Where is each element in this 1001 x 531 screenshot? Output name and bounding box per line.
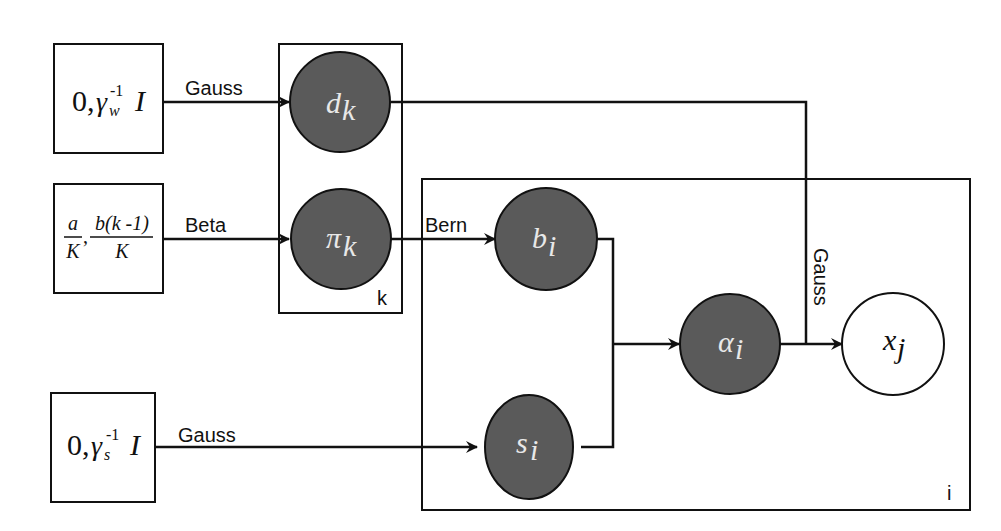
node-d-label: d [326, 86, 342, 119]
prior-w-sup: -1 [110, 82, 123, 99]
prior-s-sup: -1 [106, 426, 119, 443]
prior-s-zero: 0, [67, 428, 90, 461]
prior-pi-frac1-num: a [68, 212, 78, 234]
node-s: s i [485, 395, 573, 499]
node-d-sub: k [342, 93, 356, 126]
node-pi: π k [291, 189, 391, 289]
prior-w-sub: w [109, 102, 120, 119]
prior-s-sub: s [104, 446, 110, 463]
prior-box-s: 0, γ s -1 I [51, 393, 155, 502]
node-s-sub: i [530, 433, 538, 466]
edge-label-gauss-x: Gauss [810, 248, 832, 306]
node-pi-label: π [326, 221, 342, 254]
node-pi-sub: k [343, 229, 357, 262]
node-x: x j [842, 293, 944, 395]
prior-s-gamma: γ [91, 430, 103, 461]
node-s-label: s [516, 426, 528, 459]
node-alpha-label: α [718, 325, 735, 358]
prior-pi-frac1-den: K [65, 240, 81, 262]
edge-label-gauss-w: Gauss [185, 77, 243, 99]
edge-b-to-junction [597, 239, 613, 344]
graphical-model-diagram: 0, γ w -1 I a K , b(k -1) K 0, γ s -1 I … [0, 0, 1001, 531]
node-alpha-sub: i [735, 332, 743, 365]
edge-label-beta: Beta [185, 214, 227, 236]
prior-w-gamma: γ [96, 86, 108, 117]
node-b-sub: i [548, 229, 556, 262]
edge-label-gauss-s: Gauss [178, 424, 236, 446]
plate-k-label: k [377, 287, 388, 309]
node-alpha: α i [680, 294, 780, 394]
prior-pi-frac2-den: K [114, 240, 130, 262]
node-d: d k [290, 52, 390, 152]
node-x-label: x [882, 323, 897, 356]
prior-pi-frac2-num: b(k -1) [95, 212, 149, 235]
node-b-label: b [532, 221, 547, 254]
node-b: b i [495, 188, 597, 290]
edges [155, 102, 842, 447]
prior-box-pi: a K , b(k -1) K [54, 184, 163, 293]
edge-s-to-junction [581, 344, 613, 447]
edge-label-bern: Bern [425, 214, 467, 236]
prior-w-zero: 0, [72, 84, 95, 117]
prior-box-w: 0, γ w -1 I [54, 44, 163, 153]
prior-pi-comma: , [83, 225, 88, 247]
plate-i-label: i [947, 482, 951, 504]
